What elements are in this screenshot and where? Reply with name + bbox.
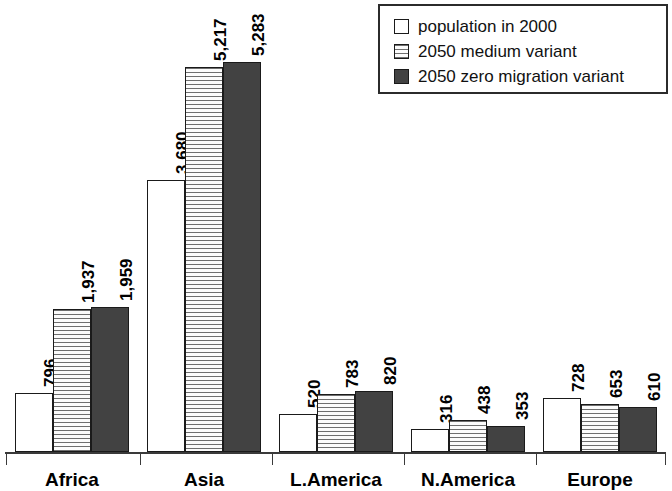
bar-namerica-series0 xyxy=(411,429,449,452)
bar-asia-series2 xyxy=(223,62,261,452)
open-square-icon xyxy=(394,19,409,34)
bar-value-label: 316 xyxy=(438,395,455,423)
x-axis-tick xyxy=(404,454,405,465)
x-axis-tick xyxy=(140,454,141,465)
legend-label: 2050 medium variant xyxy=(418,42,577,62)
bar-namerica-series2 xyxy=(487,426,525,452)
x-axis-label-namerica: N.America xyxy=(398,469,538,491)
legend-label: population in 2000 xyxy=(418,17,557,37)
bar-value-label: 5,283 xyxy=(250,13,267,56)
x-axis-label-europe: Europe xyxy=(530,469,670,491)
x-axis-tick xyxy=(6,454,7,465)
bar-asia-series0 xyxy=(147,180,185,452)
bar-value-label: 353 xyxy=(514,392,531,420)
bar-value-label: 1,937 xyxy=(80,260,97,303)
bar-value-label: 783 xyxy=(344,360,361,388)
bar-namerica-series1 xyxy=(449,420,487,452)
bar-value-label: 610 xyxy=(646,373,663,401)
x-axis-label-asia: Asia xyxy=(134,469,274,491)
bar-africa-series1 xyxy=(53,309,91,452)
dark-square-icon xyxy=(394,69,409,84)
bar-value-label: 438 xyxy=(476,386,493,414)
x-axis-tick xyxy=(272,454,273,465)
bar-value-label: 1,959 xyxy=(118,258,135,301)
bar-africa-series2 xyxy=(91,307,129,452)
bar-value-label: 653 xyxy=(608,370,625,398)
chart-legend: population in 2000 2050 medium variant 2… xyxy=(378,4,668,94)
x-axis-line xyxy=(5,452,666,454)
bar-value-label: 728 xyxy=(570,364,587,392)
bar-value-label: 820 xyxy=(382,357,399,385)
legend-item-2050-zero-migration-variant: 2050 zero migration variant xyxy=(394,64,666,89)
bar-europe-series1 xyxy=(581,404,619,452)
bar-lamerica-series1 xyxy=(317,394,355,452)
x-axis-tick xyxy=(536,454,537,465)
bar-value-label: 5,217 xyxy=(212,18,229,61)
bar-lamerica-series0 xyxy=(279,414,317,452)
bar-africa-series0 xyxy=(15,393,53,452)
x-axis-label-africa: Africa xyxy=(2,469,142,491)
bar-europe-series0 xyxy=(543,398,581,452)
bar-europe-series2 xyxy=(619,407,657,452)
legend-label: 2050 zero migration variant xyxy=(418,67,624,87)
legend-item-2050-medium-variant: 2050 medium variant xyxy=(394,39,666,64)
x-axis-label-lamerica: L.America xyxy=(266,469,406,491)
bar-lamerica-series2 xyxy=(355,391,393,452)
x-axis-tick xyxy=(665,454,666,465)
bar-asia-series1 xyxy=(185,67,223,452)
legend-item-population-2000: population in 2000 xyxy=(394,14,666,39)
hatched-square-icon xyxy=(394,44,409,59)
